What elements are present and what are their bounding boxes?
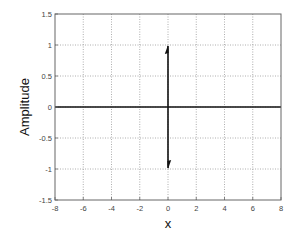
x-tick-label: -2: [136, 204, 143, 213]
x-tick-label: 0: [166, 204, 170, 213]
y-tick-label: -0.5: [39, 134, 52, 143]
x-axis-ticks: -8-6-4-202468: [52, 197, 283, 213]
x-tick-label: 6: [251, 204, 255, 213]
y-tick-label: 1.5: [42, 10, 52, 19]
x-tick-label: -4: [108, 204, 115, 213]
y-tick-label: -1: [45, 165, 52, 174]
x-tick-label: 8: [279, 204, 283, 213]
data-series: [55, 45, 281, 169]
impulse-chart: -8-6-4-202468 -1.5-1-0.500.511.5 x Ampli…: [0, 0, 297, 243]
y-tick-label: 0.5: [42, 72, 52, 81]
y-axis-label: Amplitude: [17, 78, 32, 136]
y-tick-label: 1: [48, 41, 52, 50]
y-tick-label: 0: [48, 103, 52, 112]
arrow-down-icon: [167, 160, 171, 169]
x-tick-label: 4: [222, 204, 226, 213]
x-axis-label: x: [165, 216, 172, 231]
arrow-up-icon: [165, 45, 169, 54]
x-tick-label: -6: [80, 204, 87, 213]
x-tick-label: 2: [194, 204, 198, 213]
x-tick-label: -8: [52, 204, 59, 213]
y-tick-label: -1.5: [39, 196, 52, 205]
